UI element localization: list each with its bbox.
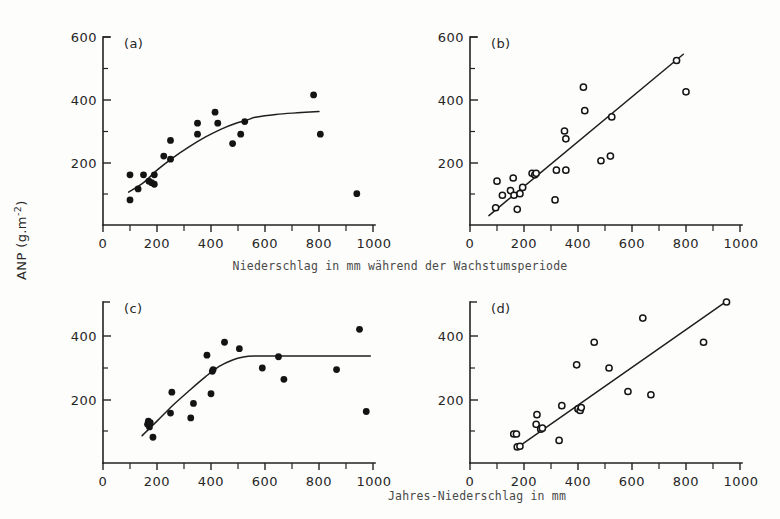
panel-d-xtick-800: 800 [673,474,699,489]
data-point [241,118,248,125]
panel-b-ytick-200: 200 [438,156,464,171]
data-point [580,84,586,90]
data-point [700,339,706,345]
panel-a-ytick-200: 200 [71,156,97,171]
panel-c-xtick-800: 800 [306,474,332,489]
data-point [559,403,565,409]
data-point [194,131,201,138]
data-point [194,120,201,127]
data-point [135,186,142,193]
panel-a-points [127,92,361,204]
panel-b-xtick-600: 600 [619,236,645,251]
panel-d-fitline-group [517,300,728,447]
y-axis-label-exponent: -2 [12,206,23,216]
data-point [539,425,545,431]
data-point [168,389,175,396]
data-point [683,89,689,95]
figure-root: ANP (g.m-2) [0,0,780,519]
panel-d-fitline [517,300,728,447]
panel-d-ytick-200: 200 [438,393,464,408]
y-axis-label-main: ANP (g.m [14,216,29,280]
data-point [625,388,631,394]
y-axis-label: ANP (g.m-2) [12,200,29,280]
panel-b-xtick-0: 0 [466,236,475,251]
data-point [167,156,174,163]
panel-c-label: (c) [124,301,143,316]
data-point [513,431,519,437]
data-point [517,191,523,197]
data-point [127,171,134,178]
panel-b-ytick-600: 600 [438,30,464,45]
data-point [648,392,654,398]
data-point [127,197,134,204]
panel-b-xtick-800: 800 [673,236,699,251]
data-point [609,114,615,120]
caption-annual-precip: Jahres-Niederschlag in mm [388,489,566,503]
panel-b-xtick-400: 400 [565,236,591,251]
panel-d-x-ticks [470,463,740,470]
data-point [167,410,174,417]
panel-a-xtick-600: 600 [252,236,278,251]
data-point [591,339,597,345]
data-point [553,167,559,173]
panel-c-xtick-0: 0 [99,474,108,489]
data-point [520,184,526,190]
figure-svg: ANP (g.m-2) [0,0,780,519]
panel-c-xtick-400: 400 [198,474,224,489]
data-point [221,339,228,346]
data-point [259,365,266,372]
panel-d-xtick-1000: 1000 [723,474,758,489]
panel-a-xtick-0: 0 [99,236,108,251]
panel-a-ytick-600: 600 [71,30,97,45]
panel-a-xtick-400: 400 [198,236,224,251]
data-point [151,181,158,188]
data-point [607,153,613,159]
panel-d-y-ticks [470,336,478,431]
panel-d-label: (d) [491,301,511,316]
panel-b-xtick-1000: 1000 [723,236,758,251]
panel-a-y-ticks [103,37,111,194]
data-point [552,197,558,203]
data-point [237,131,244,138]
data-point [356,326,363,333]
panel-b-ytick-400: 400 [438,93,464,108]
data-point [236,345,243,352]
panel-c-x-ticks [103,463,373,470]
data-point [190,400,197,407]
panel-a-label: (a) [124,36,143,51]
data-point [574,362,580,368]
panel-a: 600 400 200 0 200 400 600 800 1000 (a) [71,30,392,251]
data-point [147,419,154,426]
data-point [317,131,324,138]
data-point [598,158,604,164]
data-point [499,192,505,198]
panel-c: 400 200 0 200 400 600 800 1000 (c) [71,301,392,489]
data-point [187,415,194,422]
panel-b-y-ticks [470,37,478,194]
panel-c-points [144,326,369,441]
data-point [563,167,569,173]
panel-b-xtick-200: 200 [511,236,537,251]
data-point [363,408,370,415]
panel-a-xtick-1000: 1000 [356,236,391,251]
data-point [556,437,562,443]
data-point [333,366,340,373]
y-axis-label-group: ANP (g.m-2) [12,200,29,280]
y-axis-label-tail: ) [14,200,29,205]
panel-b: 600 400 200 0 200 400 600 800 1000 (b) [438,30,759,251]
data-point [151,171,158,178]
data-point [310,92,317,99]
data-point [494,178,500,184]
data-point [208,390,215,397]
data-point [517,443,523,449]
data-point [723,299,729,305]
panel-c-xtick-1000: 1000 [356,474,391,489]
data-point [493,205,499,211]
data-point [514,206,520,212]
panel-c-xtick-600: 600 [252,474,278,489]
data-point [204,352,211,359]
panel-c-xtick-200: 200 [144,474,170,489]
data-point [533,170,539,176]
panel-a-xtick-800: 800 [306,236,332,251]
panel-b-x-ticks [470,225,740,232]
